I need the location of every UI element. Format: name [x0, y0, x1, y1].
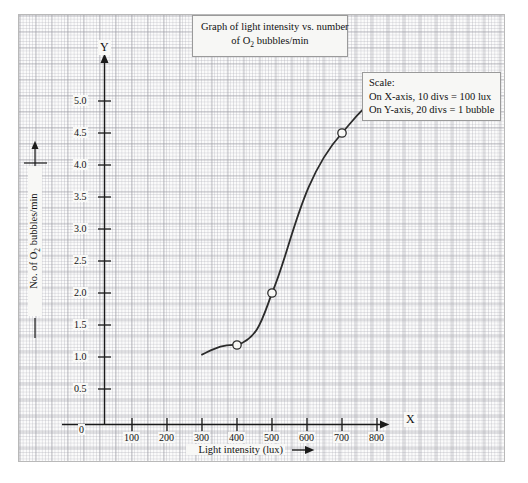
x-tick-label: 800	[368, 432, 385, 443]
y-tick-label: 1.0	[73, 351, 88, 362]
y-tick-label: 4.5	[73, 127, 88, 138]
y-tick-label: 3.0	[73, 223, 88, 234]
chart-title-line2: of O2 bubbles/min	[231, 35, 308, 46]
data-curve	[202, 101, 373, 355]
x-tick-label: 300	[193, 432, 210, 443]
x-tick-label: 400	[228, 432, 245, 443]
x-axis-marker: X	[404, 412, 417, 427]
y-tick-label: 0.5	[73, 383, 88, 394]
x-tick-label: 200	[158, 432, 175, 443]
y-tick-label: 3.5	[73, 191, 88, 202]
scale-y-line: On Y-axis, 20 divs = 1 bubble	[369, 103, 494, 117]
x-axis-title-text: Light intensity (lux)	[199, 444, 284, 455]
y-axis-title: No. of O2 bubbles/min	[28, 166, 42, 316]
y-tick-label: 2.0	[73, 287, 88, 298]
y-tick-label: 5.0	[73, 95, 88, 106]
origin-label: 0	[78, 424, 85, 435]
y-tick-label: 2.5	[73, 255, 88, 266]
scale-note-box: Scale: On X-axis, 10 divs = 100 lux On Y…	[362, 72, 501, 121]
y-axis-title-wrap: No. of O2 bubbles/min	[26, 168, 44, 318]
x-axis-title: Light intensity (lux)	[186, 444, 285, 455]
chart-title-line1: Graph of light intensity vs. number	[201, 21, 349, 32]
scale-heading: Scale:	[369, 76, 494, 90]
x-tick-label: 500	[263, 432, 280, 443]
y-tick-label: 1.5	[73, 319, 88, 330]
x-tick-label: 100	[123, 432, 140, 443]
y-axis-marker: Y	[98, 40, 111, 55]
x-tick-label: 700	[333, 432, 350, 443]
x-tick-label: 600	[298, 432, 315, 443]
scale-x-line: On X-axis, 10 divs = 100 lux	[369, 90, 494, 104]
chart-title-box: Graph of light intensity vs. number of O…	[192, 15, 348, 57]
y-tick-label: 4.0	[73, 159, 88, 170]
y-title-subscript: 2	[33, 248, 42, 252]
